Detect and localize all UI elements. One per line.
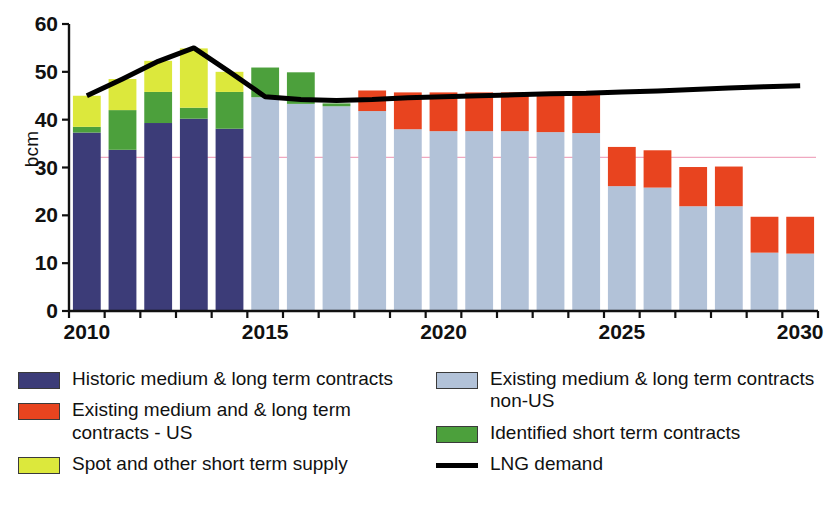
bar-column [572,94,600,311]
bar-column [73,96,101,311]
legend-item-label: Existing medium & long term contracts no… [490,368,835,413]
chart-plot-region: bcm 0102030405060 20102015202020252030 [0,0,835,350]
bar-segment [501,131,529,311]
bar-column [608,147,636,311]
lng-supply-demand-figure: bcm 0102030405060 20102015202020252030 H… [0,0,835,509]
legend-item[interactable]: Identified short term contracts [436,422,835,444]
bar-segment [323,106,351,311]
bar-segment [608,186,636,311]
bar-column [679,167,707,311]
legend-item-label: Existing medium and & long term contract… [72,399,418,444]
bar-segment [715,206,743,311]
bar-column [216,72,244,311]
legend-item[interactable]: Historic medium & long term contracts [18,368,418,390]
bar-segment [430,131,458,311]
legend-color-swatch [436,372,478,389]
legend-color-swatch [18,457,60,474]
bar-segment [679,167,707,206]
bar-column [715,167,743,311]
bar-segment [751,253,779,311]
legend-item-label: Historic medium & long term contracts [72,368,393,390]
bar-segment [572,94,600,133]
legend-color-swatch [436,426,478,443]
bar-segment [144,123,172,311]
bar-segment [751,217,779,253]
legend-column-left: Historic medium & long term contractsExi… [18,368,418,485]
bar-segment [73,96,101,127]
bar-column [323,103,351,311]
bar-segment [216,129,244,311]
bar-segment [323,103,351,106]
bar-segment [216,92,244,129]
bar-segment [109,150,137,311]
bar-segment [786,217,814,254]
legend-color-swatch [18,403,60,420]
bar-segment [715,167,743,207]
bar-segment [501,92,529,131]
bar-segment [644,150,672,187]
legend-column-right: Existing medium & long term contracts no… [436,368,835,485]
bar-segment [537,93,565,132]
legend-item[interactable]: Existing medium and & long term contract… [18,399,418,444]
legend-item-label: Spot and other short term supply [72,453,348,475]
bar-segment [679,206,707,311]
bar-segment [73,133,101,311]
chart-legend: Historic medium & long term contractsExi… [0,368,835,509]
bar-segment [287,104,315,311]
legend-item-label: LNG demand [490,453,603,475]
bar-segment [537,132,565,311]
bar-segment [251,97,279,311]
bar-column [358,90,386,311]
bar-column [180,48,208,311]
bar-column [537,93,565,311]
bar-segment [572,133,600,311]
bar-segment [465,131,493,311]
bar-column [394,92,422,311]
bar-segment [144,92,172,123]
bar-column [501,92,529,311]
stacked-bar-chart-svg [0,0,835,350]
bar-segment [786,254,814,311]
bar-column [644,150,672,311]
legend-item[interactable]: Spot and other short term supply [18,453,418,475]
legend-item[interactable]: LNG demand [436,453,835,475]
bar-column [430,92,458,311]
bar-segment [180,119,208,311]
legend-item-label: Identified short term contracts [490,422,740,444]
bar-segment [73,127,101,133]
bar-segment [358,111,386,311]
bar-column [751,217,779,311]
bar-column [465,92,493,311]
bar-segment [180,108,208,119]
bar-segment [109,110,137,150]
bar-column [109,79,137,311]
bar-segment [644,188,672,311]
legend-line-icon [436,457,478,474]
bar-segment [394,129,422,311]
bar-column [251,68,279,311]
bar-column [144,61,172,311]
bar-column [786,217,814,311]
legend-item[interactable]: Existing medium & long term contracts no… [436,368,835,413]
legend-color-swatch [18,372,60,389]
bar-column [287,72,315,311]
bar-segment [608,147,636,186]
